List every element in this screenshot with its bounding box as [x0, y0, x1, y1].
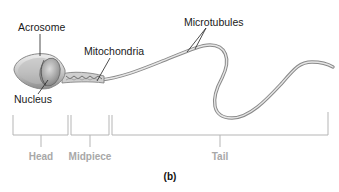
sperm-head [14, 54, 65, 89]
leader-lines [38, 28, 206, 94]
midpiece-structure [62, 72, 104, 83]
nucleus-label: Nucleus [14, 94, 52, 105]
head-bracket [13, 115, 68, 135]
segment-label-head: Head [29, 152, 53, 162]
microtubules-label: Microtubules [184, 17, 244, 28]
midpiece-bracket [71, 115, 109, 135]
mitochondria-label: Mitochondria [84, 46, 144, 57]
segment-label-tail: Tail [212, 152, 228, 162]
acrosome-label: Acrosome [18, 22, 65, 33]
segment-label-midpiece: Midpiece [69, 152, 112, 162]
panel-label: (b) [164, 172, 177, 182]
segment-brackets [13, 112, 328, 147]
